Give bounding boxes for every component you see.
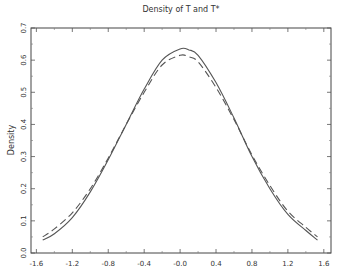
y-tick-label: 0.0 (20, 247, 28, 258)
density-chart: Density of T and T* -1.6-1.2-0.8-0.4-0.0… (0, 0, 342, 272)
y-tick-label: 0.2 (20, 183, 28, 194)
x-tick-label: -0.0 (173, 260, 187, 268)
x-tick-label: -0.8 (101, 260, 115, 268)
y-tick-label: 0.3 (20, 151, 28, 162)
x-tick-label: 1.6 (318, 260, 330, 268)
y-tick-label: 0.1 (20, 215, 28, 226)
x-tick-label: 0.4 (210, 260, 222, 268)
x-tick-label: 1.2 (282, 260, 293, 268)
y-axis-label: Density (7, 125, 16, 156)
x-axis: -1.6-1.2-0.8-0.4-0.00.40.81.21.6 (30, 28, 330, 268)
y-tick-label: 0.7 (20, 22, 28, 33)
x-tick-label: -1.2 (65, 260, 79, 268)
x-tick-label: -0.4 (137, 260, 151, 268)
y-tick-label: 0.5 (20, 87, 28, 98)
y-tick-label: 0.4 (20, 118, 28, 130)
series-line-t-star (43, 55, 318, 237)
x-tick-label: -1.6 (30, 260, 44, 268)
series-line-t (43, 48, 318, 240)
x-tick-label: 0.8 (246, 260, 257, 268)
chart-title: Density of T and T* (142, 5, 219, 14)
plot-series (43, 48, 318, 240)
plot-frame (31, 28, 331, 253)
y-tick-label: 0.6 (20, 54, 28, 66)
